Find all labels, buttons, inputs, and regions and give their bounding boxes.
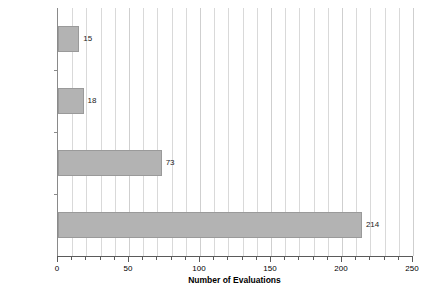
- x-axis-tick-label: 150: [263, 265, 276, 273]
- x-axis-major-tick: [412, 256, 413, 262]
- bar-value-label: 73: [166, 159, 175, 167]
- x-axis-minor-tick: [256, 256, 257, 260]
- bar-value-label: 15: [83, 35, 92, 43]
- bar: [58, 212, 362, 238]
- plot-area: 15Example(%4.38)18Analytic(%5.63)73Case …: [57, 8, 412, 256]
- x-axis-tick-label: 200: [334, 265, 347, 273]
- x-axis-minor-tick: [227, 256, 228, 260]
- x-axis-major-tick: [57, 256, 58, 262]
- gridline: [385, 8, 386, 256]
- x-axis-tick-label: 50: [124, 265, 133, 273]
- x-axis-minor-tick: [185, 256, 186, 260]
- x-axis-minor-tick: [398, 256, 399, 260]
- x-axis-minor-tick: [242, 256, 243, 260]
- x-axis-minor-tick: [142, 256, 143, 260]
- x-axis-minor-tick: [213, 256, 214, 260]
- x-axis-tick-label: 250: [405, 265, 418, 273]
- y-axis-tick: [54, 194, 58, 195]
- bar: [58, 88, 84, 114]
- x-axis-major-tick: [341, 256, 342, 262]
- x-axis-minor-tick: [85, 256, 86, 260]
- gridline: [413, 8, 414, 256]
- y-axis-tick: [54, 132, 58, 133]
- x-axis-tick-label: 100: [192, 265, 205, 273]
- x-axis-tick-label: 0: [55, 265, 59, 273]
- x-axis-minor-tick: [284, 256, 285, 260]
- x-axis-line: [57, 256, 412, 257]
- x-axis-minor-tick: [369, 256, 370, 260]
- x-axis-minor-tick: [156, 256, 157, 260]
- x-axis-minor-tick: [114, 256, 115, 260]
- x-axis-minor-tick: [327, 256, 328, 260]
- x-axis-minor-tick: [384, 256, 385, 260]
- bar: [58, 26, 79, 52]
- bar-chart: 15Example(%4.38)18Analytic(%5.63)73Case …: [0, 0, 427, 292]
- bar-value-label: 18: [88, 97, 97, 105]
- x-axis-minor-tick: [355, 256, 356, 260]
- bar-value-label: 214: [366, 221, 379, 229]
- x-axis-major-tick: [128, 256, 129, 262]
- x-axis-minor-tick: [71, 256, 72, 260]
- x-axis-major-tick: [199, 256, 200, 262]
- x-axis-minor-tick: [313, 256, 314, 260]
- x-axis-minor-tick: [171, 256, 172, 260]
- bar: [58, 150, 162, 176]
- gridline: [370, 8, 371, 256]
- gridline: [399, 8, 400, 256]
- x-axis-minor-tick: [100, 256, 101, 260]
- x-axis-major-tick: [270, 256, 271, 262]
- x-axis-title: Number of Evaluations: [57, 275, 412, 285]
- x-axis-minor-tick: [298, 256, 299, 260]
- y-axis-tick: [54, 70, 58, 71]
